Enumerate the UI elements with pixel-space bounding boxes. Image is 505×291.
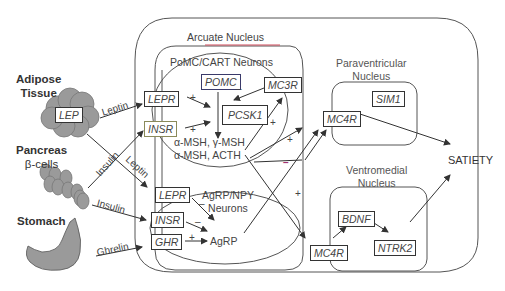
pomc-neurons-title: PoMC/CART Neurons [170, 57, 273, 68]
gene-sim1: SIM1 [372, 91, 405, 107]
gene-bdnf: BDNF [338, 211, 375, 227]
sign-minus: – [195, 217, 201, 227]
pvn-title: Paraventricular Nucleus [336, 58, 407, 81]
gene-pcsk1: PCSK1 [222, 105, 268, 125]
sign-minus-red: – [283, 158, 289, 168]
gene-lepr-pomc: LEPR [144, 91, 179, 107]
gene-mc4r-pvn: MC4R [323, 111, 361, 127]
agrp-product: AgRP [210, 236, 237, 247]
arcuate-nucleus-title: Arcuate Nucleus [187, 32, 264, 43]
pomc-products-line1: α-MSH, γ-MSH [174, 137, 245, 148]
adipose-tissue-label: Adipose Tissue [16, 74, 61, 99]
sign-plus: + [190, 125, 196, 135]
sign-plus: + [270, 118, 276, 128]
sign-plus: + [295, 189, 301, 199]
satiety-label: SATIETY [448, 155, 493, 166]
pomc-products-line2: α-MSH, ACTH [174, 150, 241, 161]
gene-insr-pomc: INSR [144, 121, 177, 137]
sign-plus: + [189, 233, 195, 243]
stomach-label: Stomach [17, 216, 66, 228]
sign-plus: + [287, 135, 293, 145]
gene-ghr: GHR [151, 234, 182, 250]
gene-lepr-agrp: LEPR [155, 187, 190, 203]
sign-minus: – [199, 199, 205, 209]
gene-ntrk2: NTRK2 [374, 240, 416, 256]
vmn-title: Ventromedial Nucleus [346, 165, 407, 188]
pancreas-label: Pancreas β-cells [16, 145, 67, 170]
agrp-neurons-title: AgRP/NPY Neurons [202, 190, 254, 213]
gene-mc3r: MC3R [264, 77, 302, 93]
sign-minus: – [236, 84, 242, 94]
gene-mc4r-vmn: MC4R [310, 245, 348, 261]
gene-lep: LEP [55, 107, 83, 123]
gene-insr-agrp: INSR [151, 212, 184, 228]
gene-pomc: POMC [201, 74, 241, 90]
diagram-canvas [0, 0, 505, 291]
pancreas-cells-shape [40, 164, 89, 209]
sign-plus: + [190, 93, 196, 103]
